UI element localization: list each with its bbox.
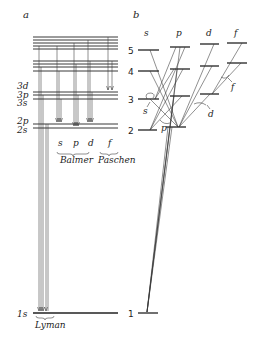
level-n4-label: 4 xyxy=(128,67,134,77)
s-column-levels xyxy=(138,50,159,313)
level-label-2s: 2s xyxy=(16,125,28,135)
column-label-d: d xyxy=(88,138,94,148)
balmer-s-transitions xyxy=(56,46,63,122)
panel-b: b s p d f 5 4 3 2 1 xyxy=(128,9,247,319)
energy-level-diagram: a 3d 3p 3s xyxy=(0,0,264,359)
upper-levels-cluster xyxy=(33,37,118,49)
transition-label-f: f xyxy=(230,82,236,92)
balmer-p-transitions xyxy=(73,43,80,126)
column-label-f: f xyxy=(107,138,113,148)
n3-levels xyxy=(33,92,118,99)
series-label-lyman: Lyman xyxy=(34,320,66,330)
s-angle-arc xyxy=(146,93,154,99)
column-header-d: d xyxy=(206,28,212,38)
transition-label-d: d xyxy=(208,109,214,119)
column-label-p: p xyxy=(73,138,79,148)
column-label-s: s xyxy=(58,138,63,148)
paschen-f-transitions xyxy=(107,37,114,90)
f-to-3d-transitions xyxy=(212,43,242,94)
column-header-p: p xyxy=(176,28,182,38)
level-n5-label: 5 xyxy=(128,46,134,56)
transition-label-s: s xyxy=(143,106,148,116)
transition-label-p: p xyxy=(161,123,167,133)
level-n1-label: 1 xyxy=(128,309,134,319)
p-to-2s-transitions xyxy=(150,47,185,130)
f-column-levels xyxy=(227,43,247,63)
column-header-f: f xyxy=(233,28,239,38)
n4-levels-cluster xyxy=(33,61,118,71)
panel-a-label: a xyxy=(23,9,29,20)
p-column-levels xyxy=(166,47,190,127)
balmer-d-transitions xyxy=(87,40,94,122)
level-label-3s: 3s xyxy=(17,98,28,108)
lyman-transitions xyxy=(38,46,49,311)
level-n3-label: 3 xyxy=(128,95,134,105)
level-label-1s: 1s xyxy=(17,309,28,319)
level-n2-label: 2 xyxy=(128,126,134,136)
panel-b-label: b xyxy=(133,9,139,20)
column-header-s: s xyxy=(144,28,149,38)
panel-a: a 3d 3p 3s xyxy=(16,9,136,330)
series-label-paschen: Paschen xyxy=(97,155,136,165)
series-label-balmer: Balmer xyxy=(59,155,94,165)
